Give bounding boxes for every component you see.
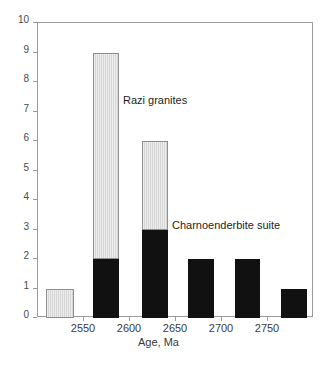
bar-segment-charnoenderbite [142,230,168,319]
bar-segment-charnoenderbite [93,259,119,318]
bar-segment-charnoenderbite [188,259,214,318]
bar-segment-charnoenderbite [281,289,307,319]
annotation-razi-granites: Razi granites [123,94,187,107]
y-axis-tick-label: 5 [23,163,29,173]
bar [142,141,168,318]
bar-segment-razi-granites [142,141,168,230]
bar [188,259,214,318]
x-axis-tick-mark [221,317,222,321]
y-axis-tick-label: 9 [23,45,29,55]
x-axis-tick-label: 2700 [209,322,233,334]
y-axis-tick-label: 3 [23,222,29,232]
bar [281,289,307,319]
x-axis-tick-label: 2650 [163,322,187,334]
x-axis: 25502600265027002750 [37,317,313,337]
y-axis-tick-label: 6 [23,133,29,143]
y-axis-tick-label: 0 [23,310,29,320]
x-axis-tick-label: 2750 [255,322,279,334]
y-axis-tick-label: 8 [23,74,29,84]
annotation-charnoenderbite-suite: Charnoenderbite suite [172,219,280,232]
bars-layer [37,22,313,318]
y-axis-tick-label: 7 [23,104,29,114]
bar [46,289,74,319]
y-axis-tick-label: 1 [23,281,29,291]
bar-segment-razi-granites [46,289,74,319]
x-axis-tick-mark [83,317,84,321]
bar [93,53,119,319]
y-axis: 012345678910 [0,22,37,317]
bar [235,259,260,318]
x-axis-tick-mark [175,317,176,321]
x-axis-tick-label: 2600 [117,322,141,334]
histogram-figure: 012345678910 Razi granites Charnoenderbi… [0,0,330,370]
x-axis-tick-mark [129,317,130,321]
plot-area: Razi granites Charnoenderbite suite [37,22,313,317]
y-axis-tick-label: 4 [23,192,29,202]
y-axis-tick-label: 2 [23,251,29,261]
x-axis-tick-label: 2550 [71,322,95,334]
bar-segment-razi-granites [93,53,119,260]
y-axis-tick-label: 10 [18,15,29,25]
x-axis-title: Age, Ma [0,336,330,349]
x-axis-title-label: Age, Ma [138,336,179,349]
bar-segment-charnoenderbite [235,259,260,318]
x-axis-tick-mark [267,317,268,321]
